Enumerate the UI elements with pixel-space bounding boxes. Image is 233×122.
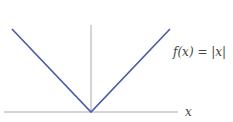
function-label: f(x) = |x| [172, 45, 226, 59]
abs-function-plot: f(x) = |x| x [0, 0, 233, 122]
x-axis-label: x [185, 105, 192, 119]
